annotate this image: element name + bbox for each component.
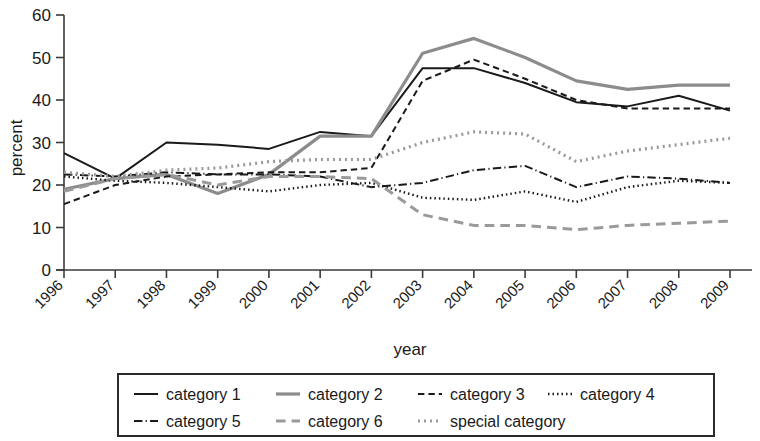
y-axis-title: percent	[7, 119, 26, 176]
x-axis-title: year	[393, 340, 426, 359]
series-line-category-1	[64, 68, 730, 179]
x-tick-label: 2007	[594, 276, 630, 312]
y-tick-label: 20	[32, 176, 51, 195]
y-tick-label: 50	[32, 49, 51, 68]
legend-label-category-1[interactable]: category 1	[166, 386, 241, 403]
x-tick-label: 1997	[82, 276, 118, 312]
x-tick-label: 1998	[133, 276, 169, 312]
y-tick-label: 40	[32, 91, 51, 110]
legend-label-category-3[interactable]: category 3	[450, 386, 525, 403]
x-tick-label: 2000	[235, 276, 271, 312]
legend-label-special-category[interactable]: special category	[450, 413, 566, 430]
legend-label-category-5[interactable]: category 5	[166, 413, 241, 430]
legend-label-category-4[interactable]: category 4	[580, 386, 655, 403]
x-tick-label: 2008	[645, 276, 681, 312]
y-tick-label: 0	[42, 261, 51, 280]
legend-label-category-2[interactable]: category 2	[308, 386, 383, 403]
x-tick-label: 2004	[440, 276, 476, 312]
x-tick-label: 1999	[184, 276, 220, 312]
line-chart-canvas: 0102030405060199619971998199920002001200…	[0, 0, 760, 441]
x-tick-label: 2005	[492, 276, 528, 312]
legend-label-category-6[interactable]: category 6	[308, 413, 383, 430]
chart-figure: 0102030405060199619971998199920002001200…	[0, 0, 760, 441]
x-tick-label: 2001	[287, 276, 323, 312]
x-tick-label: 2009	[697, 276, 733, 312]
series-line-special-category	[64, 132, 730, 177]
series-line-category-2	[64, 38, 730, 193]
y-tick-label: 10	[32, 219, 51, 238]
y-tick-label: 60	[32, 6, 51, 25]
x-tick-label: 2003	[389, 276, 425, 312]
x-tick-label: 1996	[31, 276, 67, 312]
series-line-category-4	[64, 177, 730, 203]
x-tick-label: 2006	[543, 276, 579, 312]
x-tick-label: 2002	[338, 276, 374, 312]
y-tick-label: 30	[32, 134, 51, 153]
